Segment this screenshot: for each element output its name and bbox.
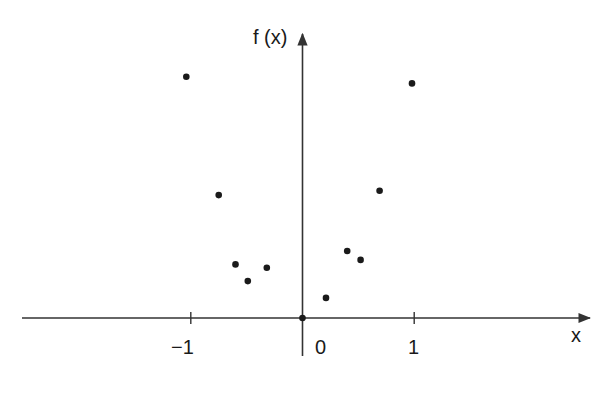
x-tick-label-0: 0 xyxy=(315,337,326,357)
data-point xyxy=(232,261,239,268)
data-point xyxy=(264,264,271,271)
data-point xyxy=(376,187,383,194)
x-tick-label-neg1: −1 xyxy=(171,337,194,357)
scatter-plot xyxy=(0,0,605,400)
data-points xyxy=(183,73,415,321)
data-point xyxy=(409,80,416,87)
data-point xyxy=(215,192,222,199)
data-point xyxy=(344,248,351,255)
data-point xyxy=(183,73,190,80)
data-point xyxy=(299,315,306,322)
y-axis-label: f (x) xyxy=(253,27,287,47)
data-point xyxy=(357,257,364,264)
data-point xyxy=(245,278,252,285)
x-tick-label-1: 1 xyxy=(408,337,419,357)
x-axis-label: x xyxy=(571,325,581,345)
data-point xyxy=(323,295,330,302)
